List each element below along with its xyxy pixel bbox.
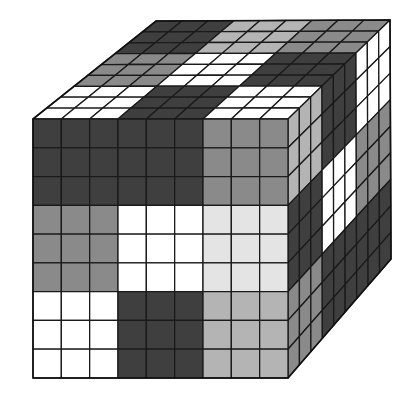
- front-cell: [260, 177, 288, 206]
- front-cell: [33, 119, 61, 148]
- front-cell: [231, 119, 259, 148]
- front-cell: [231, 205, 259, 234]
- front-cell: [90, 263, 118, 292]
- front-cell: [146, 263, 174, 292]
- front-cell: [61, 320, 89, 349]
- front-cell: [118, 349, 146, 378]
- front-cell: [203, 234, 231, 263]
- front-cell: [61, 177, 89, 206]
- front-cell: [61, 349, 89, 378]
- front-cell: [260, 205, 288, 234]
- front-cell: [146, 177, 174, 206]
- front-cell: [61, 205, 89, 234]
- front-cell: [146, 119, 174, 148]
- front-cell: [33, 148, 61, 177]
- cube-front-face: [33, 119, 288, 378]
- front-cell: [203, 292, 231, 321]
- front-cell: [146, 205, 174, 234]
- front-cell: [175, 148, 203, 177]
- front-cell: [175, 119, 203, 148]
- front-cell: [118, 234, 146, 263]
- front-cell: [260, 263, 288, 292]
- front-cell: [260, 148, 288, 177]
- front-cell: [175, 349, 203, 378]
- front-cell: [231, 148, 259, 177]
- front-cell: [33, 177, 61, 206]
- front-cell: [118, 292, 146, 321]
- front-cell: [260, 292, 288, 321]
- front-cell: [33, 292, 61, 321]
- front-cell: [231, 349, 259, 378]
- front-cell: [231, 292, 259, 321]
- front-cell: [90, 349, 118, 378]
- front-cell: [203, 263, 231, 292]
- front-cell: [260, 119, 288, 148]
- front-cell: [146, 234, 174, 263]
- front-cell: [33, 320, 61, 349]
- front-cell: [61, 234, 89, 263]
- front-cell: [61, 148, 89, 177]
- front-cell: [231, 234, 259, 263]
- front-cell: [203, 119, 231, 148]
- front-cell: [203, 205, 231, 234]
- front-cell: [90, 320, 118, 349]
- front-cell: [203, 320, 231, 349]
- front-cell: [146, 292, 174, 321]
- front-cell: [118, 148, 146, 177]
- front-cell: [231, 177, 259, 206]
- front-cell: [118, 263, 146, 292]
- front-cell: [203, 148, 231, 177]
- front-cell: [90, 292, 118, 321]
- front-cell: [118, 205, 146, 234]
- front-cell: [146, 320, 174, 349]
- front-cell: [33, 263, 61, 292]
- front-cell: [146, 148, 174, 177]
- front-cell: [33, 205, 61, 234]
- front-cell: [146, 349, 174, 378]
- front-cell: [175, 205, 203, 234]
- cube-illustration: [0, 0, 419, 408]
- front-cell: [231, 320, 259, 349]
- front-cell: [203, 349, 231, 378]
- front-cell: [61, 119, 89, 148]
- front-cell: [90, 234, 118, 263]
- front-cell: [118, 119, 146, 148]
- front-cell: [175, 234, 203, 263]
- front-cell: [175, 263, 203, 292]
- front-cell: [61, 263, 89, 292]
- front-cell: [118, 320, 146, 349]
- front-cell: [118, 177, 146, 206]
- front-cell: [90, 177, 118, 206]
- front-cell: [260, 320, 288, 349]
- cube-figure: [0, 0, 419, 408]
- front-cell: [260, 234, 288, 263]
- front-cell: [90, 148, 118, 177]
- front-cell: [203, 177, 231, 206]
- front-cell: [175, 292, 203, 321]
- front-cell: [260, 349, 288, 378]
- front-cell: [90, 205, 118, 234]
- front-cell: [175, 320, 203, 349]
- front-cell: [33, 234, 61, 263]
- front-cell: [175, 177, 203, 206]
- front-cell: [33, 349, 61, 378]
- front-cell: [61, 292, 89, 321]
- front-cell: [90, 119, 118, 148]
- front-cell: [231, 263, 259, 292]
